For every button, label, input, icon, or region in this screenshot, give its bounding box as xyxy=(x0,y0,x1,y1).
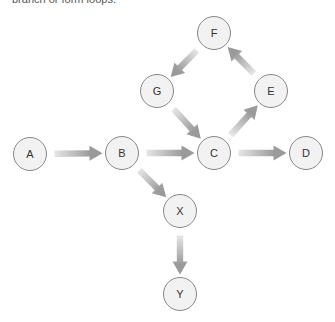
arrow-c-to-e xyxy=(225,100,263,140)
node-d: D xyxy=(290,137,323,170)
arrow-b-to-c xyxy=(147,146,195,161)
node-y: Y xyxy=(164,278,197,311)
node-f: F xyxy=(198,17,231,50)
node-g: G xyxy=(141,75,174,108)
node-label: E xyxy=(267,85,274,97)
arrow-a-to-b xyxy=(54,146,102,162)
node-label: B xyxy=(118,147,125,159)
node-label: A xyxy=(26,148,34,160)
nodes-layer: ABCDEFGXY xyxy=(14,17,323,311)
edges-layer xyxy=(54,42,286,275)
node-label: X xyxy=(176,205,184,217)
node-c: C xyxy=(198,137,231,170)
arrow-f-to-g xyxy=(165,45,202,82)
arrow-b-to-x xyxy=(134,165,171,202)
flow-diagram: ABCDEFGXY xyxy=(0,0,335,322)
arrow-c-to-d xyxy=(239,146,287,161)
node-label: G xyxy=(153,85,162,97)
arrow-g-to-c xyxy=(168,104,206,144)
node-label: Y xyxy=(176,288,184,300)
node-label: F xyxy=(211,27,218,39)
node-b: B xyxy=(106,137,139,170)
node-a: A xyxy=(14,138,47,171)
node-e: E xyxy=(255,75,288,108)
node-label: D xyxy=(302,147,310,159)
node-label: C xyxy=(210,147,218,159)
arrow-x-to-y xyxy=(173,236,188,275)
node-x: X xyxy=(164,195,197,228)
arrow-e-to-f xyxy=(222,42,259,79)
